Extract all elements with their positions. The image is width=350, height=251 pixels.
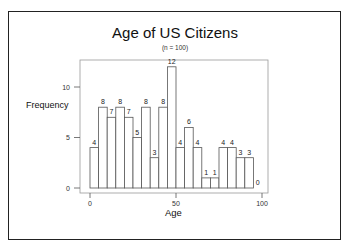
y-tick-label: 10 [62,84,70,91]
histogram-bar [202,178,211,188]
histogram-bar [90,148,99,188]
bar-value-label: 4 [92,139,96,146]
histogram-bar [116,107,125,188]
histogram-bar [142,107,151,188]
histogram-bar [193,148,202,188]
bar-value-label: 4 [230,139,234,146]
y-tick-label: 0 [66,185,70,192]
histogram-bar [228,148,237,188]
bar-value-label: 3 [239,149,243,156]
bar-value-label: 4 [221,139,225,146]
bar-value-label: 8 [144,98,148,105]
histogram-bar [133,138,142,189]
histogram-bar [159,107,168,188]
bar-value-label: 3 [153,149,157,156]
histogram-bar [185,127,194,188]
bar-value-label: 1 [204,169,208,176]
histogram-bar [219,148,228,188]
histogram-bar [236,158,245,188]
bar-value-label: 8 [161,98,165,105]
histogram-bar [245,158,254,188]
bar-value-label: 7 [127,108,131,115]
x-tick-label: 50 [172,200,180,207]
histogram-bar [107,117,116,188]
histogram-bar [99,107,108,188]
histogram-bar [150,158,159,188]
bar-value-label: 12 [168,58,176,65]
bar-value-label: 8 [101,98,105,105]
bar-value-label: 3 [247,149,251,156]
histogram-bar [210,178,219,188]
bar-value-label: 4 [196,139,200,146]
bar-value-label: 6 [187,118,191,125]
bar-value-label: 5 [135,129,139,136]
bar-value-label: 8 [118,98,122,105]
histogram-plot: 0510050100487875838124641144330 [0,0,350,251]
bar-value-label: 4 [178,139,182,146]
bar-value-label: 7 [110,108,114,115]
histogram-bar [176,148,185,188]
x-tick-label: 100 [256,200,268,207]
histogram-bar [124,117,133,188]
y-tick-label: 5 [66,134,70,141]
bar-value-label: 1 [213,169,217,176]
bar-value-label: 0 [256,179,260,186]
x-tick-label: 0 [88,200,92,207]
histogram-bar [167,67,176,188]
